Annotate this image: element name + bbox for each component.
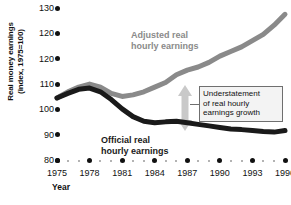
x-axis-minor-dot [241,160,243,162]
x-axis-tick-label: 1981 [107,168,137,178]
x-axis-tick-dot [283,158,288,163]
series-label-official: Official realhourly earnings [101,135,169,156]
callout-line-2: of real hourly [203,99,249,108]
callout-line-3: earnings growth [203,108,260,117]
x-axis-tick-label: 1978 [75,168,105,178]
x-axis-tick-labels: 19751978198119841987199019931996 [55,168,291,182]
x-axis-tick-dot [250,158,255,163]
x-axis-minor-dot [262,160,264,162]
series-label-official-line-2: hourly earnings [101,146,169,156]
x-axis-tick-label: 1990 [205,168,235,178]
series-label-adjusted: Adjusted realhourly earnings [131,30,199,51]
x-axis-tick-label: 1996 [270,168,291,178]
x-axis-minor-dot [132,160,134,162]
x-axis-tick-label: 1984 [140,168,170,178]
x-axis-tick-dot [185,158,190,163]
x-axis-minor-dot [197,160,199,162]
x-axis-minor-dot [273,160,275,162]
x-axis-tick-marks [55,158,287,166]
x-axis-minor-dot [230,160,232,162]
x-axis-tick-label: 1993 [237,168,267,178]
x-axis-tick-dot [217,158,222,163]
series-label-official-line-1: Official real [101,135,150,145]
x-axis-tick-label: 1975 [42,168,72,178]
x-axis-minor-dot [110,160,112,162]
callout-line-1: Understatement [203,89,260,98]
x-axis-tick-dot [55,158,60,163]
x-axis-minor-dot [67,160,69,162]
x-axis-minor-dot [99,160,101,162]
x-axis-tick-label: 1987 [172,168,202,178]
understatement-callout: Understatementof real hourlyearnings gro… [199,86,283,122]
x-axis-minor-dot [165,160,167,162]
x-axis-tick-dot [152,158,157,163]
x-axis-tick-dot [120,158,125,163]
x-axis-title: Year [52,182,70,192]
series-label-adjusted-line-1: Adjusted real [131,30,188,40]
series-label-adjusted-line-2: hourly earnings [131,41,199,51]
chart-figure: Real money earnings(index, 1975=100) 130… [0,0,291,205]
x-axis-tick-dot [87,158,92,163]
x-axis-minor-dot [208,160,210,162]
x-axis-minor-dot [175,160,177,162]
x-axis-minor-dot [78,160,80,162]
x-axis-minor-dot [143,160,145,162]
